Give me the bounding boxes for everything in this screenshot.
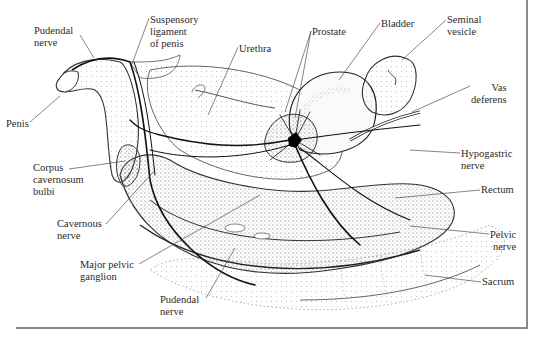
label-urethra: Urethra [239,43,271,55]
label-prostate: Prostate [312,26,346,38]
label-cavernous-nerve: Cavernous nerve [57,218,102,242]
label-suspensory-ligament: Suspensory ligament of penis [150,14,198,50]
label-pudendal-nerve-top: Pudendal nerve [34,25,73,49]
label-major-pelvic-ganglion: Major pelvic ganglion [80,259,134,283]
label-hypogastric-nerve: Hypogastric nerve [461,148,512,172]
label-bladder: Bladder [381,18,414,30]
label-pelvic-nerve: Pelvic nerve [490,229,516,253]
label-seminal-vesicle: Seminal vesicle [447,14,481,38]
label-pudendal-nerve-bottom: Pudendal nerve [160,294,199,318]
label-penis: Penis [6,118,29,130]
label-rectum: Rectum [481,184,514,196]
anatomical-figure: Pudendal nerve Suspensory ligament of pe… [0,0,545,340]
frame-border-bottom [16,327,528,329]
frame-border-right [526,0,528,329]
label-corpus-cavernosum-bulbi: Corpus cavernosum bulbi [33,162,84,198]
seminal-vesicle-shape [362,56,416,115]
label-vas-deferens: Vas deferens [471,82,507,106]
label-sacrum: Sacrum [482,276,514,288]
